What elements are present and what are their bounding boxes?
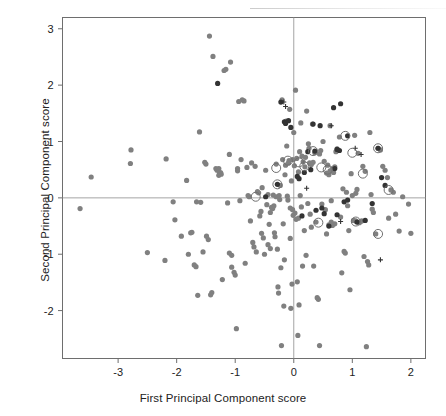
svg-text:3: 3: [47, 23, 53, 35]
data-point: [288, 125, 293, 130]
data-point: [285, 198, 290, 203]
data-point: [346, 228, 351, 233]
data-point: [145, 250, 150, 255]
data-point: [197, 129, 202, 134]
plot-frame: [63, 18, 426, 359]
data-point: [296, 176, 301, 181]
data-point: [298, 193, 303, 198]
data-point: [259, 231, 264, 236]
data-point: [248, 218, 253, 223]
axis-tick-labels: -3-2-1012-2-10123: [44, 23, 414, 378]
data-point: [234, 326, 239, 331]
data-point: [297, 149, 302, 154]
data-point: [309, 225, 314, 230]
data-point: [316, 297, 321, 302]
data-point: [345, 198, 350, 203]
data-point: [189, 230, 194, 235]
data-point: [310, 121, 315, 126]
data-point: [253, 164, 258, 169]
data-point: [288, 236, 293, 241]
data-point: [338, 101, 343, 106]
data-point: [241, 98, 246, 103]
axis-ticks: [58, 29, 411, 363]
data-point: [89, 174, 94, 179]
data-point: [317, 343, 322, 348]
data-point: [385, 175, 390, 180]
data-point: [229, 253, 234, 258]
data-point: [223, 67, 228, 72]
data-point: [298, 120, 303, 125]
reference-lines: [63, 18, 426, 359]
data-point: [326, 223, 331, 228]
highlight-ring: [251, 192, 260, 201]
data-point: [195, 293, 200, 298]
data-point: [257, 213, 262, 218]
plus-marker: [304, 186, 309, 191]
data-point: [263, 168, 268, 173]
data-point: [162, 258, 167, 263]
data-point: [360, 164, 365, 169]
data-point: [291, 130, 296, 135]
data-point: [233, 272, 238, 277]
data-point: [305, 201, 310, 206]
data-point: [299, 204, 304, 209]
data-point: [275, 284, 280, 289]
data-point: [324, 231, 329, 236]
data-point: [337, 148, 342, 153]
data-point: [363, 218, 368, 223]
data-point: [225, 200, 230, 205]
data-point: [302, 228, 307, 233]
data-point: [238, 157, 243, 162]
data-point: [268, 246, 273, 251]
data-point: [367, 130, 372, 135]
data-point: [331, 105, 336, 110]
plus-marker: [338, 219, 343, 224]
data-point: [210, 54, 215, 59]
data-point: [260, 185, 265, 190]
data-point: [251, 244, 256, 249]
data-point: [332, 166, 337, 171]
data-point: [271, 203, 276, 208]
data-point: [379, 175, 384, 180]
data-point: [288, 306, 293, 311]
data-point: [272, 234, 277, 239]
data-point: [209, 290, 214, 295]
series-ringed-points: [251, 131, 393, 238]
data-point: [262, 252, 267, 257]
data-point: [364, 344, 369, 349]
data-point: [263, 194, 268, 199]
data-point: [200, 249, 205, 254]
data-point: [275, 247, 280, 252]
svg-text:1: 1: [349, 366, 355, 378]
data-point: [345, 203, 350, 208]
data-point: [235, 168, 240, 173]
data-point: [206, 237, 211, 242]
plot-canvas: -3-2-1012-2-10123: [0, 0, 446, 416]
data-point: [347, 287, 352, 292]
data-point: [343, 251, 348, 256]
data-point: [310, 160, 315, 165]
data-point: [281, 221, 286, 226]
data-point: [296, 169, 301, 174]
data-point: [284, 143, 289, 148]
svg-text:-1: -1: [230, 366, 240, 378]
data-point: [354, 187, 359, 192]
data-point: [406, 201, 411, 206]
data-point: [128, 161, 133, 166]
data-point: [319, 205, 324, 210]
x-axis-title: First Principal Component score: [0, 392, 446, 404]
data-point: [227, 152, 232, 157]
data-point: [184, 178, 189, 183]
data-point: [311, 263, 316, 268]
data-point: [278, 265, 283, 270]
data-point: [264, 202, 269, 207]
data-point: [171, 199, 176, 204]
highlight-ring: [348, 148, 357, 157]
y-axis-title: Second Principal Component score: [39, 60, 51, 320]
data-point: [295, 333, 300, 338]
data-point: [77, 206, 82, 211]
data-point: [281, 303, 286, 308]
data-point: [275, 182, 280, 187]
plus-marker: [378, 257, 383, 262]
data-point: [258, 209, 263, 214]
